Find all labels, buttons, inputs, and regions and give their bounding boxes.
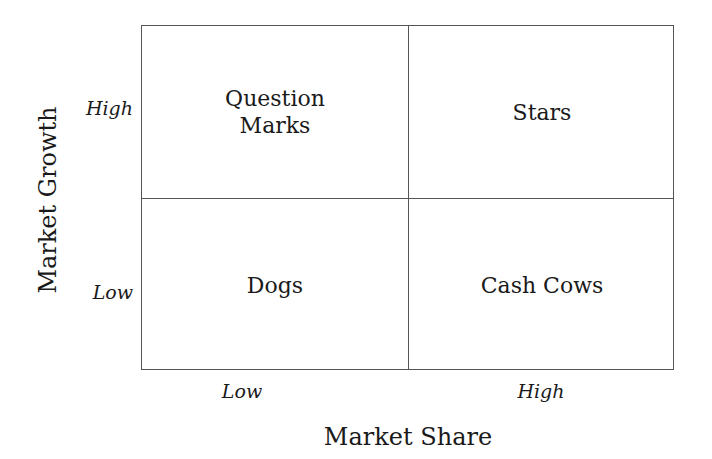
quadrant-dogs: Dogs [142,199,408,371]
quadrant-question-marks: Question Marks [142,26,408,198]
quadrant-label-line1: Question [225,85,325,112]
quadrant-label: Cash Cows [481,272,604,299]
quadrant-stars: Stars [409,26,675,198]
x-tick-high: High [517,380,564,402]
x-tick-low: Low [222,380,262,402]
quadrant-cash-cows: Cash Cows [409,199,675,371]
quadrant-label: Stars [513,99,572,126]
x-axis-title: Market Share [324,423,492,451]
y-axis-title: Market Growth [34,106,62,293]
bcg-matrix-grid: Question Marks Stars Dogs Cash Cows [141,25,674,370]
quadrant-label-line2: Marks [225,112,325,139]
quadrant-label: Dogs [247,272,303,299]
y-tick-low: Low [93,281,133,303]
y-tick-high: High [86,97,133,119]
